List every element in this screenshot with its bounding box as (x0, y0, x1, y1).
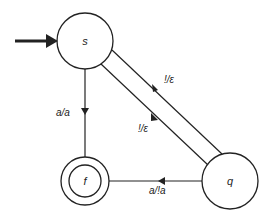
transition-s-f: a/a (56, 69, 89, 157)
transition-s-q: !/ε (101, 64, 208, 165)
transition-q-f-label: a/!a (149, 185, 166, 196)
transition-s-q-label: !/ε (138, 123, 149, 134)
state-f-label: f (83, 175, 87, 187)
automaton-diagram: s f q a/a !/ε !/ε a/!a (0, 0, 274, 216)
transition-q-f: a/!a (109, 177, 202, 196)
transition-q-s: !/ε (112, 50, 222, 154)
state-s[interactable]: s (57, 13, 113, 69)
state-q-label: q (227, 175, 234, 187)
start-arrow (15, 34, 58, 48)
state-q[interactable]: q (202, 153, 258, 209)
state-f[interactable]: f (61, 157, 109, 205)
transition-q-s-label: !/ε (164, 74, 175, 85)
transition-s-f-label: a/a (56, 107, 70, 118)
state-s-label: s (82, 35, 88, 47)
